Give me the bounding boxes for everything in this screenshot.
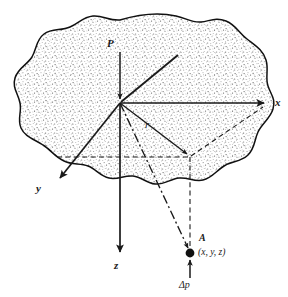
axis-label-x: x	[275, 97, 281, 108]
point-label-A: A	[199, 233, 206, 243]
irregular-body	[14, 14, 274, 184]
axis-label-y: y	[36, 183, 41, 194]
figure-container: P x y z r A (x, y, z) Δp	[0, 0, 288, 297]
axis-label-z: z	[114, 260, 118, 271]
diagram-canvas	[0, 0, 288, 297]
delta-p-label: Δp	[179, 280, 190, 290]
force-label-P: P	[107, 38, 114, 49]
point-A-dot	[186, 249, 195, 258]
point-A-marker	[186, 249, 195, 258]
radius-label-r: r	[145, 119, 149, 130]
point-A-coordinates: (x, y, z)	[198, 248, 225, 258]
